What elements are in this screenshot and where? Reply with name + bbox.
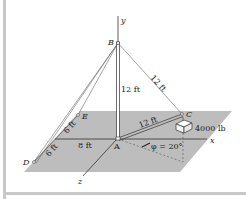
point-B-marker [116,41,119,44]
label-BC-length: 12 ft [149,73,169,94]
label-A: A [113,142,120,151]
label-x-axis: x [210,136,215,145]
label-E: E [81,112,88,121]
label-B: B [107,38,114,47]
label-D: D [22,158,30,167]
ground-plane [24,111,232,172]
left-border [3,0,6,199]
point-E-marker [77,114,80,117]
label-C: C [186,110,192,119]
bottom-border [3,192,246,195]
label-AB-length: 12 ft [121,85,141,94]
figure-frame: y B 12 ft 12 ft 12 ft C 4000 lb x φ = 20… [0,0,246,199]
cable-BE [78,43,118,115]
label-load: 4000 lb [195,124,226,133]
label-y-axis: y [120,16,126,25]
point-D-marker [33,161,36,164]
label-A-to-DE: 8 ft [78,141,93,150]
point-C-marker [181,113,184,116]
point-A-marker [116,137,120,140]
label-angle: φ = 20° [151,142,183,151]
label-z-axis: z [77,177,83,186]
pole-AB [117,42,120,139]
statics-diagram: y B 12 ft 12 ft 12 ft C 4000 lb x φ = 20… [0,0,246,199]
